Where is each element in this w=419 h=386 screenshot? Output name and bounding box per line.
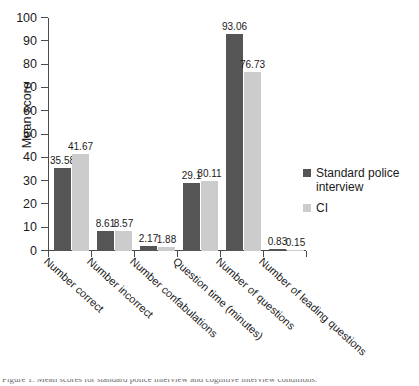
y-tick-label: 50 <box>23 127 37 141</box>
y-tick-label: 90 <box>23 34 37 48</box>
bar[interactable]: 76.73 <box>244 72 261 251</box>
bar[interactable]: 35.58 <box>54 168 71 251</box>
y-tick: 100 <box>41 17 48 18</box>
bar[interactable]: 0.15 <box>287 250 304 251</box>
bar-group: 8.618.57 <box>91 18 134 251</box>
bar[interactable]: 8.57 <box>115 231 132 251</box>
x-axis-label: Number confabulations <box>128 255 220 340</box>
legend-swatch <box>303 169 311 177</box>
legend-label: Standard police interview <box>316 166 415 194</box>
legend-label: CI <box>316 201 328 215</box>
bar-group: 2.171.88 <box>134 18 177 251</box>
bar-value-label: 0.83 <box>268 236 287 247</box>
y-tick-label: 80 <box>23 57 37 71</box>
legend-swatch <box>303 204 311 212</box>
legend-item[interactable]: Standard police interview <box>303 166 415 194</box>
bar-value-label: 0.15 <box>286 237 305 248</box>
y-tick: 70 <box>41 87 48 88</box>
y-tick-label: 20 <box>23 197 37 211</box>
y-tick: 50 <box>41 134 48 135</box>
y-tick: 30 <box>41 180 48 181</box>
bar-chart-figure: Mean score 0102030405060708090100 35.584… <box>0 0 419 386</box>
y-tick-label: 100 <box>16 11 37 25</box>
y-tick: 0 <box>41 250 48 251</box>
bar-value-label: 2.17 <box>139 233 158 244</box>
x-axis-labels: Number correctNumber incorrectNumber con… <box>48 255 388 380</box>
y-tick: 10 <box>41 227 48 228</box>
y-tick-label: 60 <box>23 104 37 118</box>
y-tick: 20 <box>41 203 48 204</box>
caption-strip: Figure 1. Mean scores for standard polic… <box>0 379 419 386</box>
bar[interactable]: 30.11 <box>201 181 218 251</box>
y-tick-label: 10 <box>23 220 37 234</box>
y-tick-label: 70 <box>23 80 37 94</box>
x-axis-label: Number of questions <box>214 255 297 332</box>
bar-value-label: 76.73 <box>240 59 265 70</box>
bar[interactable]: 41.67 <box>72 154 89 251</box>
figure-caption: Figure 1. Mean scores for standard polic… <box>2 379 317 384</box>
plot-area: 0102030405060708090100 35.5841.678.618.5… <box>48 18 306 251</box>
bar-group: 35.5841.67 <box>48 18 91 251</box>
legend-item[interactable]: CI <box>303 201 415 215</box>
y-tick-label: 30 <box>23 174 37 188</box>
bar-value-label: 93.06 <box>222 21 247 32</box>
bar[interactable]: 29.1 <box>183 183 200 251</box>
y-tick: 80 <box>41 64 48 65</box>
y-tick: 40 <box>41 157 48 158</box>
y-tick-label: 0 <box>30 244 37 258</box>
y-tick: 60 <box>41 110 48 111</box>
bar[interactable]: 0.83 <box>269 249 286 251</box>
y-tick: 90 <box>41 40 48 41</box>
bar-value-label: 30.11 <box>197 168 221 179</box>
bar-group: 93.0676.73 <box>220 18 263 251</box>
bar-value-label: 1.88 <box>157 234 176 245</box>
bar-value-label: 41.67 <box>68 141 93 152</box>
bar-value-label: 8.61 <box>96 218 115 229</box>
bar-group: 0.830.15 <box>263 18 306 251</box>
bar[interactable]: 1.88 <box>158 247 175 251</box>
bar-value-label: 8.57 <box>114 218 133 229</box>
chart-legend: Standard police interviewCI <box>303 166 415 222</box>
bar-group: 29.130.11 <box>177 18 220 251</box>
bar[interactable]: 8.61 <box>97 231 114 251</box>
y-tick-label: 40 <box>23 150 37 164</box>
bar[interactable]: 2.17 <box>140 246 157 251</box>
